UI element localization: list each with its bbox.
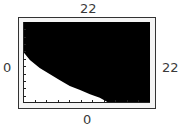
graph-screen [23, 22, 150, 103]
xmin-label: 0 [3, 61, 11, 74]
ymax-label: 22 [80, 2, 97, 15]
plot-area [23, 22, 150, 103]
ymin-label: 0 [83, 113, 91, 126]
xmax-label: 22 [162, 61, 179, 74]
